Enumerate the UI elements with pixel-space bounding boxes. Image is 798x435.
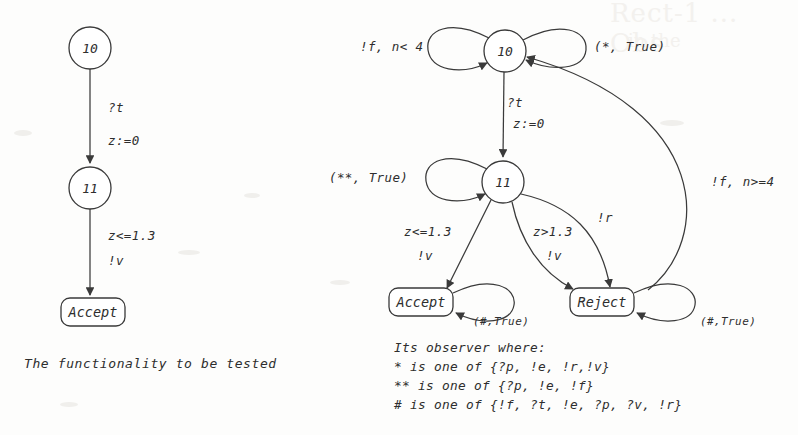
left-node-accept-label: Accept: [68, 304, 118, 320]
right-loop-10-right: [523, 29, 586, 67]
left-node-11-label: 11: [82, 181, 98, 196]
right-node-11-label: 11: [495, 175, 511, 190]
left-edge-11-accept-action: !v: [108, 253, 124, 268]
left-edge-10-11-event: ?t: [108, 100, 124, 115]
left-edge-10-11-action: z:=0: [108, 133, 140, 148]
right-loop-accept-label: (#,True): [473, 315, 529, 328]
right-edge-11-accept-action: !v: [417, 248, 433, 263]
right-edge-10-11-event: ?t: [507, 95, 523, 110]
right-node-10-label: 10: [497, 44, 513, 59]
right-edge-11-reject-guard: z>1.3: [533, 224, 573, 239]
right-edge-11-reject-r-label: !r: [597, 210, 613, 225]
right-node-accept-label: Accept: [396, 294, 446, 310]
right-loop-11-left: [426, 159, 487, 201]
left-edge-11-accept-guard: z<=1.3: [108, 228, 156, 243]
observer-legend: Its observer where: * is one of {?p, !e,…: [393, 340, 682, 412]
right-edge-11-reject-action: !v: [546, 248, 562, 263]
right-loop-reject-label: (#,True): [700, 315, 756, 328]
legend-line-3: # is one of {!f, ?t, !e, ?p, ?v, !r}: [393, 397, 682, 412]
right-loop-10-right-label: (*, True): [594, 39, 665, 54]
right-loop-reject: [634, 284, 695, 321]
left-node-10-label: 10: [82, 41, 98, 56]
legend-line-2: ** is one of {?p, !e, !f}: [394, 378, 594, 393]
figure-canvas: Rect-1 ... Obs in the 10 ?t z:=0 11 z<=1…: [0, 0, 798, 435]
left-diagram: 10 ?t z:=0 11 z<=1.3 !v Accept The funct…: [24, 27, 277, 371]
right-edge-reject-10-label: !f, n>=4: [711, 174, 774, 189]
right-loop-10-left: [428, 28, 489, 70]
right-loop-10-left-label: !f, n< 4: [360, 39, 423, 54]
right-edge-11-accept-guard: z<=1.3: [404, 224, 452, 239]
right-loop-11-left-label: (**, True): [329, 170, 408, 185]
left-diagram-caption: The functionality to be tested: [24, 356, 277, 371]
legend-line-1: * is one of {?p, !e, !r,!v}: [394, 359, 610, 374]
right-edge-11-to-accept: [447, 200, 491, 288]
right-edge-11-to-reject: [512, 202, 573, 289]
right-edge-11-to-reject-r: [521, 194, 610, 287]
automata-figure: 10 ?t z:=0 11 z<=1.3 !v Accept The funct…: [0, 0, 798, 435]
right-node-reject-label: Reject: [578, 294, 627, 310]
right-edge-10-to-11: [503, 72, 504, 157]
right-edge-10-11-action: z:=0: [513, 116, 545, 131]
right-diagram: 10 !f, n< 4 (*, True) ?t z:=0 11 (**, Tr…: [329, 28, 774, 328]
legend-title: Its observer where:: [394, 340, 546, 355]
